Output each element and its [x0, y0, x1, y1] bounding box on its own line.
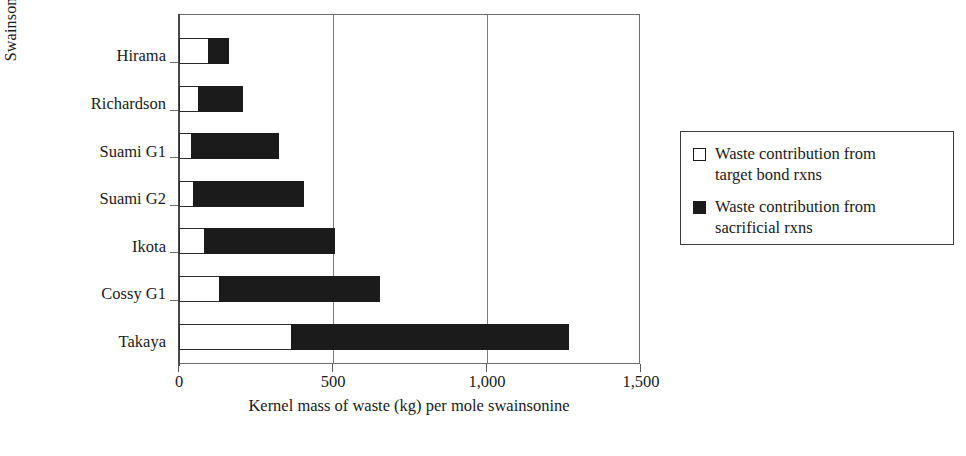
- x-tick-500: [332, 364, 333, 372]
- bar-row: [179, 38, 229, 64]
- y-tick-label-hirama: Hirama: [117, 48, 166, 65]
- bar-segment-sacrificial: [193, 181, 304, 207]
- y-minor-tick: [170, 252, 178, 253]
- x-tick-label-500: 500: [321, 372, 346, 392]
- chart-figure: Swainsonine plan Hirama Richardson Suami…: [0, 0, 966, 456]
- x-tick-label-1500: 1,500: [622, 372, 659, 392]
- y-minor-tick: [170, 110, 178, 111]
- y-tick-label-ikota: Ikota: [132, 239, 166, 256]
- bar-segment-target-bond: [179, 38, 209, 64]
- legend-label-line2: sacrificial rxns: [715, 217, 876, 238]
- legend-label-line2: target bond rxns: [715, 164, 876, 185]
- bar-segment-sacrificial: [219, 276, 380, 302]
- x-axis-title: Kernel mass of waste (kg) per mole swain…: [178, 396, 640, 416]
- gridline-1000: [487, 15, 488, 363]
- bar-segment-sacrificial: [204, 228, 335, 254]
- bar-segment-sacrificial: [208, 38, 229, 64]
- y-tick-label-suami-g1: Suami G1: [100, 144, 166, 161]
- legend-label-sacrificial: Waste contribution from sacrificial rxns: [715, 196, 876, 238]
- bar-row: [179, 324, 569, 350]
- bar-row: [179, 276, 380, 302]
- y-axis-tick-labels: Hirama Richardson Suami G1 Suami G2 Ikot…: [34, 14, 174, 364]
- bar-row: [179, 133, 279, 159]
- bar-segment-target-bond: [179, 86, 199, 112]
- bar-row: [179, 181, 304, 207]
- bar-segment-sacrificial: [191, 133, 279, 159]
- y-minor-tick: [170, 300, 178, 301]
- bar-segment-sacrificial: [291, 324, 569, 350]
- y-tick-label-richardson: Richardson: [91, 96, 166, 113]
- x-tick-0: [178, 364, 179, 372]
- bar-row: [179, 86, 243, 112]
- bar-segment-target-bond: [179, 228, 205, 254]
- hollow-square-icon: [693, 148, 706, 161]
- bar-segment-sacrificial: [198, 86, 243, 112]
- legend-entry-sacrificial: Waste contribution from sacrificial rxns: [693, 196, 943, 238]
- y-minor-tick: [170, 205, 178, 206]
- y-tick-label-takaya: Takaya: [119, 334, 166, 351]
- bar-segment-target-bond: [179, 276, 220, 302]
- y-minor-tick: [170, 62, 178, 63]
- y-axis-title: Swainsonine plan: [2, 0, 24, 118]
- bar-row: [179, 228, 335, 254]
- x-tick-1000: [486, 364, 487, 372]
- y-minor-tick: [170, 157, 178, 158]
- x-tick-label-0: 0: [175, 372, 183, 392]
- gridline-500: [333, 15, 334, 363]
- filled-square-icon: [693, 201, 706, 214]
- legend-entry-target-bond: Waste contribution from target bond rxns: [693, 143, 943, 185]
- y-tick-label-suami-g2: Suami G2: [100, 191, 166, 208]
- chart-legend: Waste contribution from target bond rxns…: [680, 131, 954, 245]
- legend-label-line1: Waste contribution from: [715, 144, 876, 163]
- x-tick-label-1000: 1,000: [468, 372, 505, 392]
- legend-label-target-bond: Waste contribution from target bond rxns: [715, 143, 876, 185]
- legend-label-line1: Waste contribution from: [715, 197, 876, 216]
- y-tick-label-cossy-g1: Cossy G1: [101, 286, 166, 303]
- bar-segment-target-bond: [179, 324, 292, 350]
- plot-area: [178, 14, 640, 364]
- x-tick-1500: [640, 364, 641, 372]
